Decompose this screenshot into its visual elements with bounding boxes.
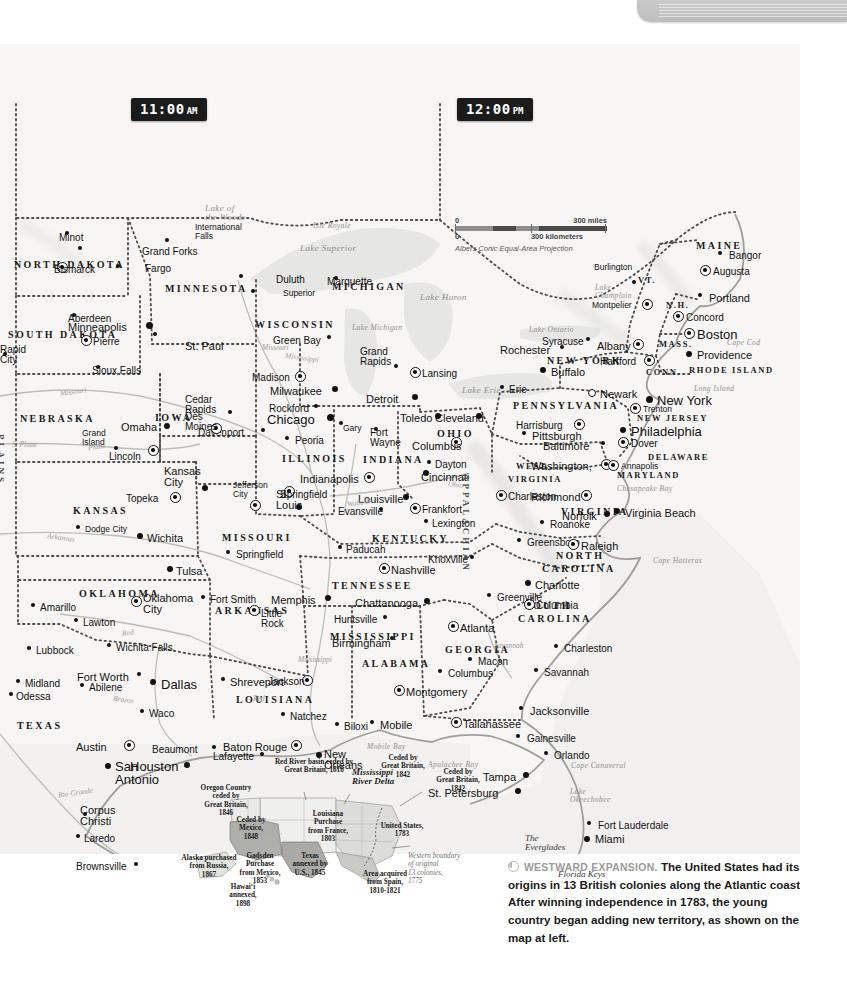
city-label: Jefferson City	[233, 481, 268, 498]
water-label: Lake Okeechobee	[570, 788, 611, 803]
city-label: Nashville	[391, 565, 436, 576]
city-label: Atlanta	[460, 623, 494, 634]
city-label: Buffalo	[551, 367, 585, 378]
city-dot-icon	[427, 460, 431, 464]
city-label: Omaha	[121, 422, 157, 433]
city-dot-icon	[587, 821, 591, 825]
city-label: St. Paul	[185, 341, 224, 352]
state-label: MINNESOTA	[165, 284, 248, 294]
caption-block: WESTWARD EXPANSION. The United States ha…	[508, 858, 808, 946]
city-label: Montgomery	[406, 687, 467, 698]
state-label: INDIANA	[363, 455, 424, 465]
city-label: Erie	[509, 385, 527, 395]
city-label: Jacksonville	[530, 706, 589, 717]
territorial-acquisitions-inset[interactable]: Red River basin ceded by Great Britain, …	[186, 780, 452, 900]
city-dot-icon	[325, 595, 331, 601]
state-label: KANSAS	[73, 506, 128, 516]
city-dot-icon	[718, 251, 722, 255]
city-label: Beaumont	[152, 745, 198, 755]
city-dot-icon	[412, 394, 418, 400]
city-dot-icon	[76, 525, 80, 529]
city-dot-icon	[540, 520, 544, 524]
city-label: Springfield	[236, 550, 283, 560]
city-label: Odessa	[16, 692, 50, 702]
city-label: Toledo	[400, 413, 432, 424]
city-label: Natchez	[290, 712, 327, 722]
city-dot-icon	[80, 683, 84, 687]
city-label: Pittsburgh	[532, 431, 582, 442]
state-label: NEBRASKA	[20, 414, 95, 424]
city-label: Superior	[283, 289, 315, 298]
city-label: Brownsville	[76, 862, 127, 872]
city-label: St. Louis	[276, 489, 302, 511]
water-label: Lake Erie	[462, 386, 501, 395]
city-label: Lafayette	[213, 752, 254, 762]
city-label: Gary	[343, 424, 361, 433]
city-dot-icon	[614, 508, 620, 514]
region-label: PLAINS	[0, 434, 5, 485]
river-label: Rio Grande	[58, 787, 94, 799]
city-dot-icon	[632, 280, 636, 284]
water-label: Lake Champlain	[595, 284, 632, 299]
city-label: Lawton	[83, 618, 115, 628]
city-dot-icon	[394, 364, 398, 368]
city-dot-icon	[338, 545, 342, 549]
city-dot-icon	[114, 446, 118, 450]
city-dot-icon	[335, 722, 339, 726]
city-label: Pierre	[93, 337, 120, 347]
city-dot-icon	[534, 668, 538, 672]
city-dot-icon	[164, 423, 170, 429]
city-label: Savannah	[544, 668, 589, 678]
river-label: Red	[253, 695, 265, 703]
clock-meridiem: PM	[513, 106, 524, 116]
city-dot-icon	[327, 414, 334, 421]
state-label: NEW JERSEY	[637, 414, 708, 423]
city-label: Dayton	[435, 460, 467, 470]
water-label: Isle Royale	[313, 222, 351, 230]
city-dot-icon	[314, 404, 318, 408]
capital-star-icon	[379, 563, 390, 574]
top-right-tab[interactable]	[637, 0, 847, 22]
city-dot-icon	[332, 386, 338, 392]
clock-central-time: 11:00AM	[131, 98, 207, 121]
city-label: Wichita	[147, 533, 183, 544]
capital-star-icon	[496, 490, 507, 501]
city-dot-icon	[515, 788, 521, 794]
city-label: Columbia	[536, 601, 578, 611]
city-label: Abilene	[89, 683, 122, 693]
city-label: Chicago	[267, 413, 315, 426]
city-label: Dallas	[161, 678, 197, 691]
map-canvas[interactable]: 11:00AM12:00PM 0 300 miles 0 300 kilomet…	[0, 44, 847, 854]
city-label: Orlando	[554, 751, 590, 761]
city-dot-icon	[105, 763, 111, 769]
city-label: Roanoke	[550, 520, 590, 530]
city-label: Corpus Christi	[80, 805, 115, 827]
city-dot-icon	[137, 533, 143, 539]
capital-star-icon	[581, 490, 592, 501]
city-label: Evansville	[338, 507, 383, 517]
capital-star-icon	[364, 472, 375, 483]
city-dot-icon	[9, 692, 13, 696]
state-label: MISSOURI	[222, 533, 292, 543]
city-dot-icon	[167, 566, 173, 572]
capital-star-icon	[630, 403, 641, 414]
state-label: N.H.	[666, 301, 689, 310]
scale-bar: 0 300 miles 0 300 kilometers Albers Coni…	[455, 216, 607, 253]
water-label: Lake Michigan	[352, 324, 402, 332]
city-dot-icon	[523, 772, 529, 778]
city-label: Kansas City	[164, 466, 201, 488]
moon-phase-icon	[508, 861, 519, 872]
inset-territory-label: Hawai‘i annexed, 1898	[215, 883, 271, 908]
city-label: Columbus	[412, 441, 462, 452]
city-label: Syracuse	[542, 337, 584, 347]
city-label: Chattanooga	[355, 598, 418, 609]
city-label: Macon	[478, 657, 508, 667]
inset-territory-label: Oregon Country ceded by Great Britain, 1…	[184, 784, 268, 817]
city-label: Columbus	[448, 669, 493, 679]
projection-note: Albers Conic Equal-Area Projection	[455, 244, 607, 253]
city-dot-icon	[370, 720, 374, 724]
state-label: KENTUCKY	[372, 534, 449, 544]
water-label: Cape Cod	[727, 339, 760, 347]
region-label: APPALACHIAN	[461, 474, 470, 573]
city-label: Cleveland	[435, 413, 484, 424]
